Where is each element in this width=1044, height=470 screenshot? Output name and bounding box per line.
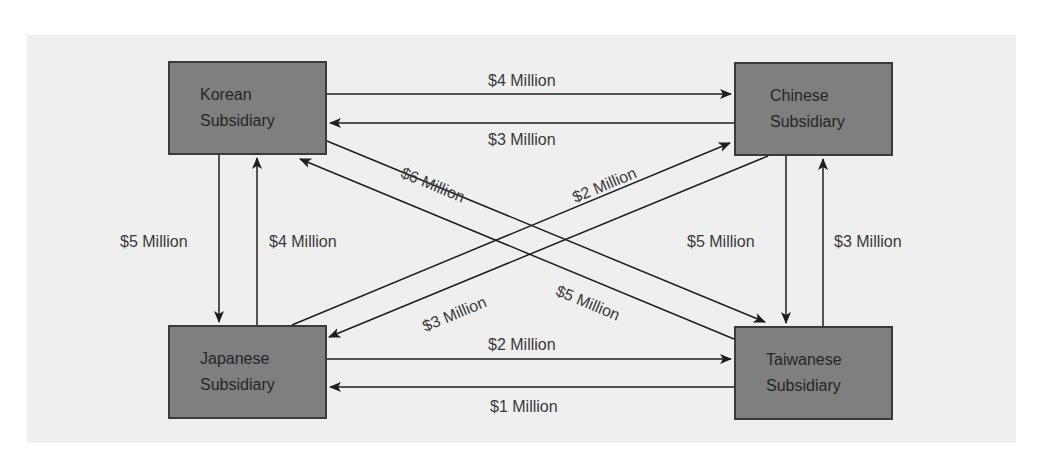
- node-label-line1: Korean: [200, 82, 325, 108]
- node-korean-subsidiary: Korean Subsidiary: [168, 61, 327, 155]
- node-japanese-subsidiary: Japanese Subsidiary: [168, 325, 327, 419]
- flow-label-chinese-to-korean: $3 Million: [488, 131, 556, 149]
- flow-label-korean-to-chinese: $4 Million: [488, 72, 556, 90]
- flow-label-chinese-to-taiwanese: $5 Million: [687, 233, 755, 251]
- node-taiwanese-subsidiary: Taiwanese Subsidiary: [734, 326, 893, 420]
- flow-label-taiwanese-to-chinese: $3 Million: [834, 233, 902, 251]
- flow-label-japanese-to-korean: $4 Million: [269, 233, 337, 251]
- flow-label-korean-to-japanese: $5 Million: [120, 233, 188, 251]
- arrow-japanese-to-chinese: [292, 143, 730, 325]
- node-label-line1: Chinese: [770, 83, 891, 109]
- node-label-line2: Subsidiary: [200, 372, 325, 398]
- flow-label-taiwanese-to-japanese: $1 Million: [490, 398, 558, 416]
- flow-label-japanese-to-taiwanese: $2 Million: [488, 336, 556, 354]
- arrow-korean-to-taiwanese: [327, 141, 765, 322]
- node-label-line2: Subsidiary: [200, 108, 325, 134]
- node-label-line2: Subsidiary: [766, 373, 891, 399]
- node-chinese-subsidiary: Chinese Subsidiary: [734, 62, 893, 156]
- node-label-line1: Taiwanese: [766, 347, 891, 373]
- node-label-line1: Japanese: [200, 346, 325, 372]
- node-label-line2: Subsidiary: [770, 109, 891, 135]
- arrow-taiwanese-to-korean: [300, 159, 734, 339]
